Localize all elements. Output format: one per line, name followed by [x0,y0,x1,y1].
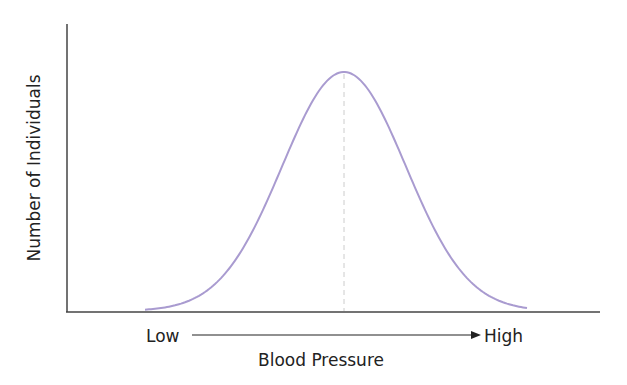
distribution-curve [145,72,527,310]
x-axis-label: Blood Pressure [258,350,384,370]
x-axis-low-label: Low [146,326,179,346]
arrowhead-icon [471,331,481,339]
y-axis-label: Number of Individuals [24,74,44,261]
bell-curve-chart [0,0,627,385]
x-axis-high-label: High [484,326,523,346]
